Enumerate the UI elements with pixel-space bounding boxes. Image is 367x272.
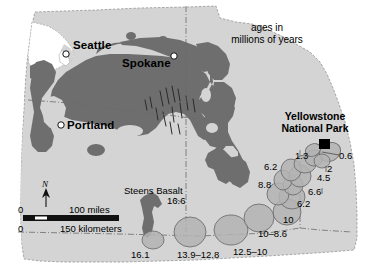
scale-bar	[23, 215, 119, 221]
age-label-10: 10	[283, 215, 294, 225]
ages-note: ages in millions of years	[212, 22, 322, 45]
scale-zero-top: 0	[18, 205, 23, 215]
age-label-13-9-12-8: 13.9–12.8	[177, 250, 219, 260]
caldera-16-1	[142, 231, 164, 249]
basalt-outlier-north-2	[159, 36, 167, 42]
park-label-line2: National Park	[266, 122, 364, 134]
scale-zero-bottom: 0	[18, 224, 23, 234]
basalt-hole-4	[201, 88, 211, 102]
city-dot-portland	[58, 122, 64, 128]
city-dot-seattle	[63, 51, 69, 57]
basalt-hole-3	[206, 123, 218, 133]
park-label-line1: Yellowstone	[266, 110, 364, 122]
city-dot-spokane	[171, 53, 177, 59]
park-label: Yellowstone National Park	[266, 110, 364, 134]
ages-note-line2: millions of years	[212, 34, 322, 46]
age-label-10-8-6: 10–8.6	[258, 229, 287, 239]
age-label-8-8: 8.8	[258, 180, 271, 190]
age-label-1-3: 1.3	[295, 151, 308, 161]
city-label-portland: Portland	[67, 120, 114, 132]
age-label-2: 2	[327, 164, 332, 174]
basalt-outlier-1	[87, 144, 105, 156]
ages-note-line1: ages in	[212, 22, 322, 34]
north-arrow-letter: N	[42, 180, 48, 189]
geologic-map-figure: ages in millions of years Seattle Spokan…	[0, 0, 367, 272]
age-label-0-6: 0.6	[339, 151, 352, 161]
age-label-16-1: 16.1	[131, 250, 150, 260]
steens-basalt-age: 16.6	[167, 196, 186, 206]
age-label-6-6: 6.6	[308, 187, 321, 197]
scale-kilometers-label: 150 kilometers	[60, 224, 122, 234]
caldera-13-9-12-8	[174, 217, 206, 247]
age-label-4-5: 4.5	[317, 173, 330, 183]
basalt-outlier-north-1	[126, 32, 136, 40]
city-label-seattle: Seattle	[73, 40, 111, 52]
age-label-6-2-lower: 6.2	[297, 199, 310, 209]
caldera-12-5-10-a	[214, 215, 248, 245]
city-label-spokane: Spokane	[122, 58, 171, 70]
scale-miles-label: 100 miles	[69, 205, 110, 215]
basalt-hole-1	[117, 125, 143, 137]
age-label-6-2-upper: 6.2	[264, 162, 277, 172]
basalt-outlier-north-3	[175, 40, 181, 50]
age-label-12-5-10: 12.5–10	[233, 247, 267, 257]
yellowstone-park-marker	[319, 139, 330, 149]
